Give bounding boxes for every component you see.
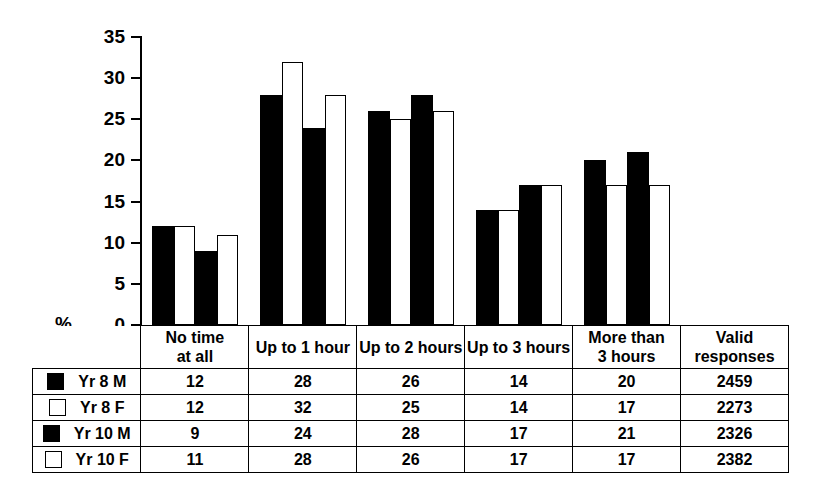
bar-3-2	[519, 185, 541, 325]
data-table: No time at all Up to 1 hour Up to 2 hour…	[32, 325, 789, 473]
cell-r0-c2: 26	[357, 369, 465, 395]
cell-r0-c3: 14	[465, 369, 573, 395]
table-header-row: No time at all Up to 1 hour Up to 2 hour…	[33, 326, 789, 369]
column-header-1-line1: Up to 1 hour	[249, 338, 356, 357]
cell-r3-c5: 2382	[681, 447, 789, 473]
cell-r3-c1: 28	[249, 447, 357, 473]
column-header-2-line1: Up to 2 hours	[357, 338, 464, 357]
column-header-valid-responses: Valid responses	[681, 326, 789, 369]
column-header-0-line2: at all	[141, 347, 248, 366]
bar-1-3	[325, 95, 347, 325]
legend-label: Yr 8 M	[78, 373, 126, 391]
bar-2-3	[433, 111, 455, 325]
cell-r1-c4: 17	[573, 395, 681, 421]
y-tick-label-10: 10	[80, 233, 125, 252]
cell-r1-c0: 12	[141, 395, 249, 421]
legend-label: Yr 8 F	[80, 399, 124, 417]
legend-cell-1: Yr 8 F	[33, 395, 141, 421]
table-row: Yr 10 F11282617172382	[33, 447, 789, 473]
legend-label: Yr 10 F	[76, 451, 129, 469]
bar-4-2	[627, 152, 649, 325]
bar-1-1	[282, 62, 304, 325]
table-row: Yr 8 M12282614202459	[33, 369, 789, 395]
y-tick-label-15: 15	[80, 192, 125, 211]
bar-group-1	[249, 37, 357, 325]
cell-r3-c0: 11	[141, 447, 249, 473]
y-tick-35	[131, 36, 141, 38]
bar-0-0	[152, 226, 174, 325]
column-header-0-line1: No time	[141, 328, 248, 347]
bar-2-0	[368, 111, 390, 325]
y-tick-25	[131, 118, 141, 120]
y-tick-15	[131, 201, 141, 203]
y-tick-label-20: 20	[80, 150, 125, 169]
legend-cell-3: Yr 10 F	[33, 447, 141, 473]
bar-2-1	[390, 119, 412, 325]
bar-4-3	[649, 185, 671, 325]
column-header-3-line1: Up to 3 hours	[465, 338, 572, 357]
bar-1-2	[303, 128, 325, 325]
column-header-1: Up to 1 hour	[249, 326, 357, 369]
cell-r2-c1: 24	[249, 421, 357, 447]
header-legend-spacer	[33, 326, 141, 369]
legend-swatch-icon	[47, 373, 64, 390]
legend-cell-2: Yr 10 M	[33, 421, 141, 447]
cell-r3-c2: 26	[357, 447, 465, 473]
cell-r0-c4: 20	[573, 369, 681, 395]
y-tick-10	[131, 242, 141, 244]
cell-r1-c2: 25	[357, 395, 465, 421]
chart-page: 35302520151050 % No time at all Up to 1 …	[0, 0, 834, 493]
cell-r2-c0: 9	[141, 421, 249, 447]
bar-4-1	[606, 185, 628, 325]
table-row: Yr 10 M9242817212326	[33, 421, 789, 447]
bar-4-0	[584, 160, 606, 325]
cell-r2-c5: 2326	[681, 421, 789, 447]
column-header-5-line1: Valid	[681, 328, 788, 347]
cell-r1-c3: 14	[465, 395, 573, 421]
y-tick-label-30: 30	[80, 68, 125, 87]
cell-r3-c4: 17	[573, 447, 681, 473]
bar-1-0	[260, 95, 282, 325]
legend-cell-0: Yr 8 M	[33, 369, 141, 395]
cell-r1-c5: 2273	[681, 395, 789, 421]
legend-swatch-icon	[43, 425, 60, 442]
bar-group-0	[141, 37, 249, 325]
y-tick-5	[131, 283, 141, 285]
table-body: Yr 8 M12282614202459Yr 8 F12322514172273…	[33, 369, 789, 473]
bar-2-2	[411, 95, 433, 325]
column-header-4-line1: More than	[573, 328, 680, 347]
bar-0-2	[195, 251, 217, 325]
bar-3-3	[541, 185, 563, 325]
column-header-4-line2: 3 hours	[573, 347, 680, 366]
cell-r2-c3: 17	[465, 421, 573, 447]
column-header-3: Up to 3 hours	[465, 326, 573, 369]
legend-swatch-icon	[49, 399, 66, 416]
y-tick-label-5: 5	[80, 274, 125, 293]
legend-label: Yr 10 M	[74, 425, 131, 443]
cell-r2-c4: 21	[573, 421, 681, 447]
bar-3-0	[476, 210, 498, 325]
plot-area	[141, 37, 789, 325]
bar-group-2	[357, 37, 465, 325]
y-tick-30	[131, 77, 141, 79]
y-tick-label-25: 25	[80, 109, 125, 128]
column-header-2: Up to 2 hours	[357, 326, 465, 369]
cell-r0-c0: 12	[141, 369, 249, 395]
legend-swatch-icon	[45, 451, 62, 468]
column-header-0: No time at all	[141, 326, 249, 369]
bar-group-4	[573, 37, 681, 325]
cell-r2-c2: 28	[357, 421, 465, 447]
bar-group-3	[465, 37, 573, 325]
bar-0-3	[217, 235, 239, 326]
cell-r0-c1: 28	[249, 369, 357, 395]
y-tick-20	[131, 159, 141, 161]
y-tick-label-35: 35	[80, 27, 125, 46]
bar-3-1	[498, 210, 520, 325]
cell-r1-c1: 32	[249, 395, 357, 421]
cell-r0-c5: 2459	[681, 369, 789, 395]
column-header-5-line2: responses	[681, 347, 788, 366]
bar-0-1	[174, 226, 196, 325]
column-header-4: More than 3 hours	[573, 326, 681, 369]
cell-r3-c3: 17	[465, 447, 573, 473]
table-row: Yr 8 F12322514172273	[33, 395, 789, 421]
